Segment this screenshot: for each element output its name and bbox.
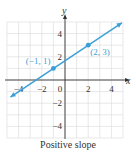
x-tick-label: 4 [109, 84, 114, 94]
point-label: (−1, 1) [26, 56, 51, 66]
x-tick-label: 0 [58, 84, 63, 94]
point-label: (2, 3) [90, 47, 110, 57]
data-point [51, 66, 56, 71]
chart-caption: Positive slope [0, 139, 136, 150]
y-tick-label: −4 [52, 121, 62, 131]
x-tick-label: 2 [86, 84, 91, 94]
x-axis-label: x [125, 75, 131, 86]
y-tick-label: −2 [52, 98, 62, 108]
y-tick-label: 2 [58, 52, 63, 62]
y-tick-label: 4 [58, 29, 63, 39]
chart-plot: −4−2024−4−224 (−1, 1)(2, 3) x y [0, 0, 136, 158]
x-tick-label: −2 [37, 84, 47, 94]
y-axis-label: y [61, 5, 67, 16]
